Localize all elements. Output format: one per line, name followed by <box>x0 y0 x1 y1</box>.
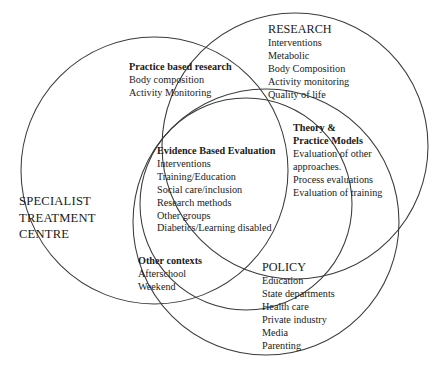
practice-based-research-item-2: Activity Monitoring <box>129 87 232 100</box>
evidence-based-evaluation-item-1: Interventions <box>157 158 275 171</box>
label-evidence-based-evaluation: Evidence Based Evaluation Interventions … <box>157 145 275 235</box>
label-specialist-treatment-centre: SPECIALIST TREATMENT CENTRE <box>19 193 96 243</box>
research-item-2: Metabolic <box>268 50 349 63</box>
evidence-based-evaluation-item-6: Diabetics/Learning disabled <box>157 222 275 235</box>
policy-item-5: Media <box>262 327 335 340</box>
other-contexts-item-2: Weekend <box>138 281 202 294</box>
venn-diagram: SPECIALIST TREATMENT CENTRE Practice bas… <box>0 0 448 366</box>
evidence-based-evaluation-item-2: Training/Education <box>157 171 275 184</box>
evidence-based-evaluation-heading: Evidence Based Evaluation <box>157 145 275 158</box>
label-policy: POLICY Education State departments Healt… <box>262 260 335 353</box>
policy-item-2: State departments <box>262 288 335 301</box>
theory-item-4: Evaluation of training <box>293 187 382 200</box>
research-item-4: Activity monitoring <box>268 76 349 89</box>
label-theory-and-practice-models: Theory & Practice Models Evaluation of o… <box>293 122 382 199</box>
research-item-5: Quality of life <box>268 89 349 102</box>
policy-item-6: Parenting <box>262 340 335 353</box>
practice-based-research-heading: Practice based research <box>129 61 232 74</box>
policy-item-1: Education <box>262 275 335 288</box>
practice-based-research-item-1: Body composition <box>129 74 232 87</box>
specialist-line-1: SPECIALIST <box>19 193 96 210</box>
evidence-based-evaluation-item-4: Research methods <box>157 197 275 210</box>
theory-heading-line-1: Theory & <box>293 122 382 135</box>
theory-item-1: Evaluation of other <box>293 148 382 161</box>
theory-heading-line-2: Practice Models <box>293 135 382 148</box>
research-item-1: Interventions <box>268 37 349 50</box>
policy-heading: POLICY <box>262 260 335 275</box>
label-practice-based-research: Practice based research Body composition… <box>129 61 232 100</box>
label-research: RESEARCH Interventions Metabolic Body Co… <box>268 22 349 102</box>
research-item-3: Body Composition <box>268 63 349 76</box>
evidence-based-evaluation-item-3: Social care/inclusion <box>157 184 275 197</box>
specialist-line-2: TREATMENT <box>19 210 96 227</box>
label-other-contexts: Other contexts Afterschool Weekend <box>138 255 202 294</box>
theory-item-3: Process evaluations <box>293 174 382 187</box>
other-contexts-heading: Other contexts <box>138 255 202 268</box>
evidence-based-evaluation-item-5: Other groups <box>157 210 275 223</box>
research-heading: RESEARCH <box>268 22 349 37</box>
theory-item-2: approaches. <box>293 161 382 174</box>
specialist-line-3: CENTRE <box>19 226 96 243</box>
other-contexts-item-1: Afterschool <box>138 268 202 281</box>
policy-item-4: Private industry <box>262 314 335 327</box>
policy-item-3: Health care <box>262 301 335 314</box>
